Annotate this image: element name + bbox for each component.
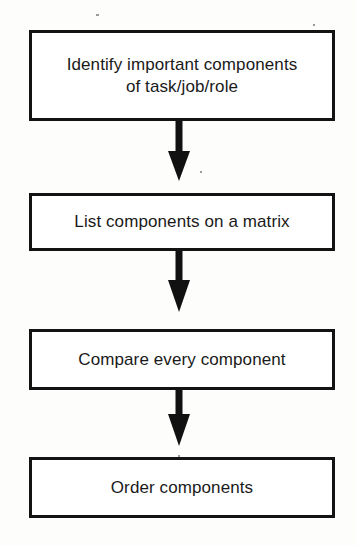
flow-node-label: Order components (103, 477, 261, 499)
arrow-compare-to-order (168, 389, 190, 464)
scan-artifact (313, 24, 315, 26)
flow-node-label: List components on a matrix (66, 211, 297, 233)
flow-node-compare-components: Compare every component (29, 329, 335, 390)
flow-node-identify-components: Identify important components of task/jo… (29, 30, 335, 121)
flow-node-label: Identify important components of task/jo… (59, 54, 306, 98)
arrow-identify-to-list (168, 120, 190, 181)
flow-node-order-components: Order components (29, 457, 335, 518)
scan-artifact (96, 14, 99, 16)
flow-node-label: Compare every component (70, 349, 293, 371)
scan-artifact (200, 171, 202, 173)
flow-node-list-components: List components on a matrix (29, 193, 335, 251)
arrow-list-to-compare (168, 250, 190, 312)
flowchart-diagram: Identify important components of task/jo… (0, 0, 356, 546)
